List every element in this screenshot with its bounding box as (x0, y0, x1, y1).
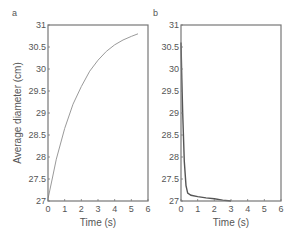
y-tick-label: 29.5 (161, 86, 179, 96)
x-tick-label: 3 (228, 204, 233, 214)
x-tick-label: 1 (195, 204, 200, 214)
chart-figure: a01234562727.52828.52929.53030.531Time (… (0, 0, 297, 243)
x-tick-label: 5 (129, 204, 134, 214)
data-line (181, 43, 231, 201)
y-tick-label: 27 (36, 196, 46, 206)
y-tick-label: 30 (36, 64, 46, 74)
y-tick-label: 27.5 (28, 174, 46, 184)
panel-a: a01234562727.52828.52929.53030.531Time (… (12, 8, 151, 228)
y-tick-label: 29.5 (28, 86, 46, 96)
y-tick-label: 28 (36, 152, 46, 162)
y-tick-label: 27.5 (161, 174, 179, 184)
axes-box (48, 25, 148, 201)
y-tick-label: 31 (36, 20, 46, 30)
panel-label: a (12, 8, 17, 18)
panel-b: b01234562727.52828.52929.53030.531Time (… (153, 8, 284, 228)
x-tick-label: 4 (245, 204, 250, 214)
y-axis-label: Average diameter (cm) (12, 62, 23, 164)
y-tick-label: 28.5 (161, 130, 179, 140)
x-tick-label: 0 (178, 204, 183, 214)
y-tick-label: 29 (36, 108, 46, 118)
y-tick-label: 28.5 (28, 130, 46, 140)
x-axis-label: Time (s) (80, 217, 116, 228)
y-tick-label: 29 (169, 108, 179, 118)
x-tick-label: 2 (79, 204, 84, 214)
x-tick-label: 6 (278, 204, 283, 214)
x-tick-label: 3 (95, 204, 100, 214)
data-line (48, 34, 138, 199)
x-tick-label: 1 (62, 204, 67, 214)
x-tick-label: 5 (262, 204, 267, 214)
panel-label: b (153, 8, 158, 18)
y-tick-label: 31 (169, 20, 179, 30)
y-tick-label: 27 (169, 196, 179, 206)
x-tick-label: 4 (112, 204, 117, 214)
x-tick-label: 6 (145, 204, 150, 214)
y-tick-label: 28 (169, 152, 179, 162)
y-tick-label: 30 (169, 64, 179, 74)
x-tick-label: 0 (45, 204, 50, 214)
y-tick-label: 30.5 (161, 42, 179, 52)
y-tick-label: 30.5 (28, 42, 46, 52)
axes-box (181, 25, 281, 201)
x-tick-label: 2 (212, 204, 217, 214)
x-axis-label: Time (s) (213, 217, 249, 228)
